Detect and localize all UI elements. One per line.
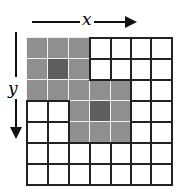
y-arrowhead-icon [10, 127, 22, 139]
grid-cell [89, 142, 112, 165]
shaded-cell [48, 38, 68, 58]
x-axis-label: x [80, 9, 94, 29]
shaded-cell [69, 122, 89, 142]
grid-cell [68, 163, 91, 186]
grid-cell [150, 37, 173, 60]
shaded-cell [27, 59, 47, 79]
grid-cell [130, 79, 152, 102]
grid-cell [68, 142, 91, 165]
shaded-cell [69, 101, 89, 121]
grid-cell [130, 163, 152, 186]
grid-cell [130, 58, 152, 81]
shaded-cell [69, 59, 89, 79]
grid-cell [26, 100, 49, 123]
grid-cell [89, 163, 112, 186]
grid-cell [150, 58, 173, 81]
grid-cell [26, 142, 49, 165]
shaded-cell [27, 80, 47, 100]
grid-cell [130, 142, 152, 165]
grid-cell [110, 163, 132, 186]
grid-cell [110, 58, 132, 81]
shaded-cell [48, 80, 68, 100]
shaded-cell [90, 101, 110, 121]
grid-cell [26, 121, 49, 144]
y-axis-label: y [8, 77, 18, 99]
shaded-cell [111, 122, 130, 142]
grid-cell [47, 163, 70, 186]
grid-cell [47, 100, 70, 123]
shaded-cell [90, 122, 110, 142]
grid-cell [47, 121, 70, 144]
shaded-cell [69, 38, 89, 58]
shaded-cell [90, 80, 110, 100]
shaded-cell [111, 101, 130, 121]
grid-cell [26, 163, 49, 186]
grid-cell [110, 37, 132, 60]
grid-cell [130, 100, 152, 123]
grid-cell [150, 163, 173, 186]
grid-cell [150, 121, 173, 144]
grid-cell [150, 100, 173, 123]
grid-cell [89, 37, 112, 60]
pixel-grid [26, 37, 171, 185]
grid-cell [47, 142, 70, 165]
shaded-cell [27, 38, 47, 58]
grid-cell [150, 79, 173, 102]
shaded-cell [111, 80, 130, 100]
grid-cell [110, 142, 132, 165]
grid-cell [89, 58, 112, 81]
grid-cell [130, 37, 152, 60]
shaded-cell [69, 80, 89, 100]
x-arrowhead-icon [125, 16, 137, 28]
grid-cell [150, 142, 173, 165]
shaded-cell [48, 59, 68, 79]
grid-cell [130, 121, 152, 144]
